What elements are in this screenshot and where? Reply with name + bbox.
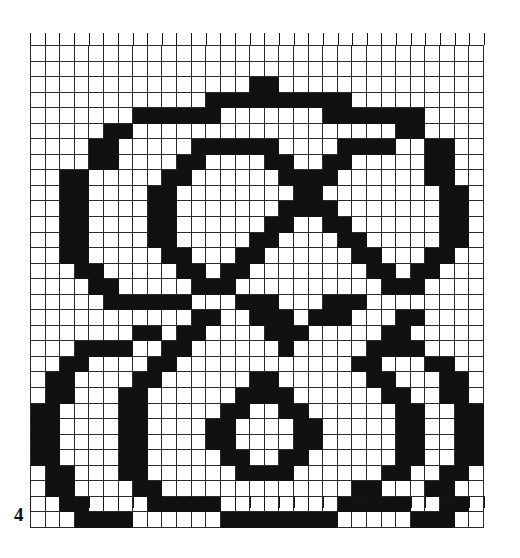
pattern-cell-filled [454, 185, 469, 201]
pattern-cell-filled [308, 310, 323, 326]
pattern-cell-filled [162, 356, 177, 372]
pattern-cell-empty [74, 108, 89, 124]
pattern-cell-filled [410, 108, 425, 124]
pattern-cell-filled [74, 232, 89, 248]
pattern-cell-empty [264, 46, 279, 62]
pattern-cell-empty [162, 325, 177, 341]
pattern-cell-empty [337, 123, 352, 139]
pattern-cell-empty [396, 217, 411, 233]
pattern-cell-empty [177, 310, 192, 326]
pattern-cell-filled [410, 403, 425, 419]
pattern-cell-empty [367, 77, 382, 93]
pattern-cell-empty [469, 201, 484, 217]
pattern-cell-empty [381, 201, 396, 217]
pattern-cell-empty [31, 92, 46, 108]
pattern-cell-empty [31, 341, 46, 357]
pattern-cell-filled [337, 92, 352, 108]
pattern-cell-empty [104, 481, 119, 497]
pattern-cell-empty [440, 310, 455, 326]
pattern-cell-empty [440, 46, 455, 62]
pattern-cell-empty [279, 372, 294, 388]
tick-mark [264, 33, 265, 45]
pattern-cell-empty [74, 325, 89, 341]
pattern-cell-empty [337, 388, 352, 404]
pattern-cell-empty [367, 325, 382, 341]
pattern-cell-empty [425, 279, 440, 295]
pattern-cell-empty [60, 139, 75, 155]
pattern-row [31, 46, 484, 62]
pattern-cell-filled [60, 388, 75, 404]
pattern-cell-empty [293, 46, 308, 62]
pattern-cell-empty [206, 201, 221, 217]
pattern-cell-empty [250, 123, 265, 139]
pattern-cell-empty [191, 419, 206, 435]
pattern-cell-empty [308, 232, 323, 248]
pattern-cell-empty [89, 46, 104, 62]
pattern-cell-filled [323, 201, 338, 217]
pattern-cell-empty [381, 217, 396, 233]
pattern-cell-empty [454, 310, 469, 326]
pattern-cell-empty [45, 92, 60, 108]
pattern-cell-filled [133, 403, 148, 419]
pattern-cell-filled [45, 419, 60, 435]
pattern-cell-filled [425, 356, 440, 372]
pattern-cell-filled [104, 512, 119, 528]
pattern-cell-filled [323, 92, 338, 108]
tick-mark [440, 496, 441, 508]
pattern-cell-empty [425, 201, 440, 217]
pattern-cell-empty [206, 450, 221, 466]
pattern-row [31, 108, 484, 124]
pattern-cell-empty [337, 450, 352, 466]
pattern-cell-empty [45, 217, 60, 233]
pattern-cell-filled [381, 465, 396, 481]
pattern-cell-empty [410, 139, 425, 155]
pattern-cell-empty [89, 434, 104, 450]
tick-mark [396, 496, 397, 508]
pattern-cell-empty [177, 217, 192, 233]
pattern-cell-empty [118, 310, 133, 326]
tick-mark [89, 496, 90, 508]
pattern-row [31, 341, 484, 357]
pattern-cell-empty [60, 154, 75, 170]
pattern-cell-empty [440, 108, 455, 124]
pattern-cell-empty [133, 139, 148, 155]
pattern-cell-filled [381, 139, 396, 155]
pattern-cell-empty [60, 123, 75, 139]
pattern-cell-filled [425, 170, 440, 186]
pattern-cell-empty [279, 108, 294, 124]
pattern-cell-empty [425, 434, 440, 450]
pattern-cell-filled [220, 434, 235, 450]
pattern-cell-empty [425, 325, 440, 341]
pattern-cell-filled [293, 201, 308, 217]
pattern-cell-empty [352, 325, 367, 341]
tick-mark [279, 496, 280, 508]
pattern-cell-empty [147, 512, 162, 528]
pattern-cell-empty [396, 372, 411, 388]
pattern-cell-filled [352, 356, 367, 372]
pattern-cell-filled [381, 263, 396, 279]
pattern-row [31, 154, 484, 170]
tick-mark [147, 33, 148, 45]
pattern-cell-empty [440, 92, 455, 108]
pattern-cell-empty [147, 403, 162, 419]
pattern-cell-empty [337, 46, 352, 62]
pattern-cell-empty [147, 341, 162, 357]
pattern-cell-filled [279, 512, 294, 528]
pattern-cell-empty [235, 170, 250, 186]
pattern-cell-empty [323, 139, 338, 155]
pattern-cell-empty [206, 294, 221, 310]
pattern-cell-empty [31, 310, 46, 326]
pattern-cell-empty [191, 356, 206, 372]
pattern-cell-empty [352, 341, 367, 357]
pattern-cell-filled [396, 465, 411, 481]
pattern-cell-empty [425, 294, 440, 310]
tick-mark [352, 33, 353, 45]
pattern-cell-filled [264, 139, 279, 155]
pattern-cell-empty [352, 434, 367, 450]
pattern-cell-filled [440, 217, 455, 233]
pattern-cell-empty [264, 341, 279, 357]
pattern-cell-empty [191, 77, 206, 93]
pattern-cell-empty [118, 481, 133, 497]
pattern-cell-empty [469, 512, 484, 528]
pattern-cell-filled [279, 154, 294, 170]
